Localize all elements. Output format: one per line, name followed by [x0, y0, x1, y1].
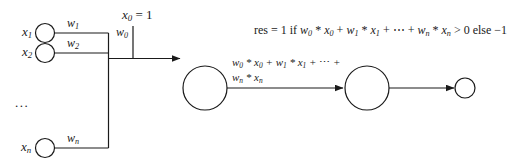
bias-weight-label: w0 [116, 26, 128, 41]
input-label-xn-subscript: n [27, 145, 31, 155]
weight-label-w2-subscript: 2 [75, 42, 79, 51]
input-ellipsis: ... [15, 96, 29, 110]
input-node-x2 [36, 44, 55, 63]
input-label-x2: x2 [22, 45, 32, 60]
input-node-xn [36, 139, 55, 158]
summation-neuron [183, 66, 227, 110]
weight-label-wn: wn [67, 132, 79, 147]
input-label-x1: x1 [22, 25, 32, 40]
perceptron-diagram: x1 x2 xn w1 w2 wn ... x0 = 1 w0 w0 * x0 … [0, 0, 530, 168]
weight-label-wn-subscript: n [75, 137, 79, 146]
bias-weight-subscript: 0 [124, 31, 128, 40]
edge-label-line2: wn * xn [232, 72, 263, 85]
input-label-xn: xn [21, 140, 31, 155]
weight-label-w2: w2 [67, 37, 79, 52]
input-label-x1-subscript: 1 [28, 30, 32, 40]
input-label-x2-subscript: 2 [28, 50, 32, 60]
activation-neuron [345, 66, 389, 110]
result-formula: res = 1 if w0 * x0 + w1 * x1 + ⋯ + wn * … [254, 24, 507, 39]
weight-label-w1-subscript: 1 [75, 22, 79, 31]
edge-label-line1: w0 * x0 + w1 * x1 + ⋯ + [232, 57, 340, 70]
bias-value-label: x0 = 1 [122, 8, 153, 23]
input-node-x1 [36, 24, 55, 43]
output-node [455, 78, 475, 98]
weight-label-w1: w1 [67, 17, 79, 32]
